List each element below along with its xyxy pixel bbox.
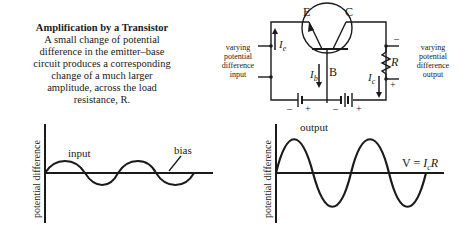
transistor-circuit bbox=[258, 3, 399, 107]
collector-label: C bbox=[345, 5, 353, 19]
input-label: varying bbox=[226, 43, 250, 52]
emitter-current-label: Ie bbox=[278, 38, 287, 53]
y-axis-label: potential difference bbox=[262, 140, 273, 218]
output-graph: output V = IcR potential difference bbox=[262, 121, 444, 223]
bias-annotation: bias bbox=[174, 144, 192, 156]
output-annotation: output bbox=[300, 121, 328, 133]
output-label: difference bbox=[417, 61, 450, 70]
input-label: input bbox=[230, 70, 247, 79]
emitter-label: E bbox=[303, 5, 310, 19]
battery-right-minus: – bbox=[332, 103, 339, 114]
battery-right-plus: + bbox=[356, 103, 362, 114]
output-label: potential bbox=[419, 52, 448, 61]
bias-pointer bbox=[169, 156, 181, 171]
output-label: varying bbox=[421, 43, 445, 52]
output-plus-sign: + bbox=[390, 79, 396, 90]
collector-current-label: Ic bbox=[367, 71, 376, 86]
base-current-label: Ib bbox=[309, 68, 318, 83]
battery-left-minus: – bbox=[286, 103, 293, 114]
output-minus-sign: – bbox=[393, 33, 400, 44]
input-label: potential bbox=[224, 52, 253, 61]
input-annotation: input bbox=[68, 147, 91, 159]
base-label: B bbox=[329, 65, 337, 79]
collector-lead bbox=[333, 22, 346, 49]
diagram-canvas: E C B R Ie Ib Ic varying potential diffe… bbox=[0, 0, 462, 235]
y-axis-label: potential difference bbox=[31, 140, 42, 218]
output-label: output bbox=[423, 70, 444, 79]
battery-left-plus: + bbox=[305, 103, 311, 114]
input-graph: input bias potential difference bbox=[31, 124, 213, 223]
input-label: difference bbox=[222, 61, 255, 70]
resistor-label: R bbox=[390, 55, 399, 69]
formula-annotation: V = IcR bbox=[402, 156, 439, 172]
